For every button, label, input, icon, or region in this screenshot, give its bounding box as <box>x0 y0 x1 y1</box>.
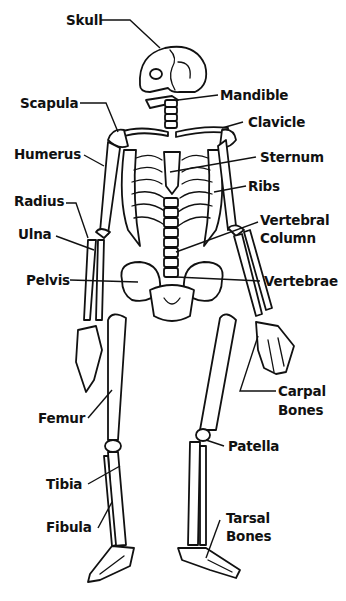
label-vertebrae: Vertebrae <box>264 273 338 289</box>
label-fibula: Fibula <box>46 519 92 535</box>
label-tarsal-bones-line1: Tarsal <box>226 510 270 526</box>
legs <box>88 314 240 582</box>
label-radius: Radius <box>14 193 64 209</box>
label-mandible: Mandible <box>220 87 288 103</box>
label-patella: Patella <box>228 438 279 454</box>
label-carpal-bones-line2: Bones <box>278 402 323 418</box>
label-ulna: Ulna <box>18 226 52 242</box>
label-humerus: Humerus <box>14 146 81 162</box>
skeleton-illustration <box>0 0 346 601</box>
label-sternum: Sternum <box>260 149 324 165</box>
spine <box>164 198 178 277</box>
label-tibia: Tibia <box>46 476 82 492</box>
label-carpal-bones-line1: Carpal <box>278 383 326 399</box>
label-pelvis: Pelvis <box>26 272 70 288</box>
label-vertebral-column-line1: Vertebral <box>260 212 329 228</box>
label-femur: Femur <box>38 410 85 426</box>
neck-vertebrae <box>165 100 177 128</box>
label-tarsal-bones-line2: Bones <box>226 528 271 544</box>
skeleton-diagram: Skull Mandible Scapula Clavicle Humerus … <box>0 0 346 601</box>
skull-drawing <box>140 47 206 108</box>
label-ribs: Ribs <box>248 178 280 194</box>
label-clavicle: Clavicle <box>248 114 305 130</box>
label-vertebral-column-line2: Column <box>260 230 316 246</box>
label-skull: Skull <box>66 12 103 28</box>
label-scapula: Scapula <box>20 95 78 111</box>
